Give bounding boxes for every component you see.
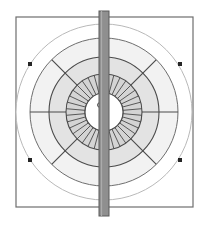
vertical-bar-body [99, 11, 109, 216]
marker-top-left [28, 62, 32, 66]
marker-bottom-left [28, 158, 32, 162]
diagram-canvas [0, 0, 208, 226]
marker-bottom-right [178, 158, 182, 162]
radial-plan-figure [0, 0, 208, 226]
marker-top-right [178, 62, 182, 66]
vertical-bar [99, 11, 109, 216]
